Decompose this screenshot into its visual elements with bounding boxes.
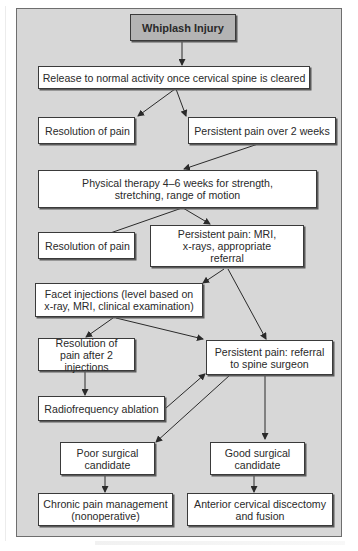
node-label: Anterior cervical discectomy and fusion — [192, 498, 328, 522]
arrow-facet-to-persistent-referral — [116, 318, 203, 339]
node-label: Resolution of pain after 2 injections — [45, 337, 128, 373]
node-label: Radiofrequency ablation — [44, 403, 158, 415]
node-label: Good surgical candidate — [223, 447, 292, 471]
node-good-surgical-candidate: Good surgical candidate — [210, 442, 305, 475]
node-resolution-of-pain-2: Resolution of pain — [38, 232, 135, 259]
node-resolution-after-2-injections: Resolution of pain after 2 injections — [38, 338, 135, 371]
node-release-normal-activity: Release to normal activity once cervical… — [38, 66, 310, 89]
node-label: Resolution of pain — [45, 125, 130, 137]
arrow-persistent-mri-to-persistent-referral — [228, 269, 266, 339]
node-label: Persistent pain over 2 weeks — [194, 125, 329, 137]
arrow-release-to-resolution1 — [138, 89, 175, 116]
node-persistent-pain-referral: Persistent pain: referral to spine surge… — [206, 340, 333, 375]
node-resolution-of-pain-1: Resolution of pain — [38, 117, 135, 144]
node-label: Persistent pain: MRI, x-rays, appropriat… — [175, 228, 279, 264]
arrow-facet-to-resolution-after2 — [86, 318, 113, 337]
node-label: Chronic pain management (nonoperative) — [43, 498, 168, 522]
node-label: Whiplash Injury — [142, 22, 224, 34]
node-persistent-pain-2-weeks: Persistent pain over 2 weeks — [188, 117, 336, 144]
node-label: Resolution of pain — [45, 240, 130, 252]
arrow-persistent-mri-to-facet — [203, 269, 224, 283]
node-label: Release to normal activity once cervical… — [43, 72, 306, 84]
node-physical-therapy: Physical therapy 4–6 weeks for strength,… — [38, 170, 317, 208]
node-anterior-cervical-discectomy: Anterior cervical discectomy and fusion — [187, 493, 333, 526]
arrow-persistent-2wk-to-physical-therapy — [184, 144, 258, 169]
node-chronic-pain-management: Chronic pain management (nonoperative) — [38, 493, 173, 526]
node-label: Poor surgical candidate — [73, 447, 142, 471]
node-label: Physical therapy 4–6 weeks for strength,… — [59, 177, 296, 201]
node-persistent-pain-mri: Persistent pain: MRI, x-rays, appropriat… — [150, 225, 304, 267]
arrow-release-to-persistent-2wk — [176, 89, 186, 116]
node-poor-surgical-candidate: Poor surgical candidate — [60, 442, 155, 475]
node-whiplash-injury: Whiplash Injury — [130, 14, 236, 41]
arrow-physical-therapy-to-persistent-mri — [183, 208, 210, 224]
node-facet-injections: Facet injections (level based on x-ray, … — [35, 283, 203, 317]
node-radiofrequency-ablation: Radiofrequency ablation — [38, 396, 165, 421]
node-label: Persistent pain: referral to spine surge… — [209, 346, 330, 370]
cropped-caption-line — [95, 541, 345, 545]
node-label: Facet injections (level based on x-ray, … — [44, 288, 194, 312]
